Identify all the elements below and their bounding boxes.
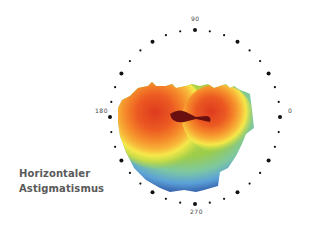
minor-tick-dot [179, 30, 181, 32]
major-tick-dot [119, 72, 123, 76]
minor-tick-dot [114, 146, 116, 148]
label-0: 0 [288, 107, 292, 114]
major-tick-dot [236, 40, 240, 44]
minor-tick-dot [278, 101, 280, 103]
major-tick-dot [193, 202, 197, 206]
minor-tick-dot [209, 202, 211, 204]
minor-tick-dot [165, 198, 167, 200]
label-180: 180 [95, 107, 108, 114]
minor-tick-dot [259, 172, 261, 174]
major-tick-dot [119, 159, 123, 163]
minor-tick-dot [110, 101, 112, 103]
major-tick-dot [267, 72, 271, 76]
major-tick-dot [236, 190, 240, 194]
minor-tick-dot [223, 198, 225, 200]
minor-tick-dot [165, 34, 167, 36]
minor-tick-dot [129, 172, 131, 174]
label-270: 270 [190, 208, 203, 215]
major-tick-dot [151, 190, 155, 194]
minor-tick-dot [249, 49, 251, 51]
caption-line-2: Astigmatismus [19, 181, 104, 196]
major-tick-dot [151, 40, 155, 44]
minor-tick-dot [139, 183, 141, 185]
label-90: 90 [191, 15, 200, 22]
minor-tick-dot [223, 34, 225, 36]
heatmap-surface [110, 74, 260, 200]
minor-tick-dot [249, 183, 251, 185]
minor-tick-dot [274, 86, 276, 88]
astigmatism-figure: 90 180 0 270 Horizontaler Astigmatismus [0, 0, 309, 229]
minor-tick-dot [129, 60, 131, 62]
minor-tick-dot [274, 146, 276, 148]
minor-tick-dot [110, 131, 112, 133]
caption-line-1: Horizontaler [19, 166, 104, 181]
minor-tick-dot [179, 202, 181, 204]
minor-tick-dot [209, 30, 211, 32]
minor-tick-dot [259, 60, 261, 62]
minor-tick-dot [278, 131, 280, 133]
major-tick-dot [267, 159, 271, 163]
major-tick-dot [193, 28, 197, 32]
figure-caption: Horizontaler Astigmatismus [19, 166, 104, 196]
minor-tick-dot [139, 49, 141, 51]
major-tick-dot [278, 115, 282, 119]
minor-tick-dot [114, 86, 116, 88]
major-tick-dot [108, 115, 112, 119]
